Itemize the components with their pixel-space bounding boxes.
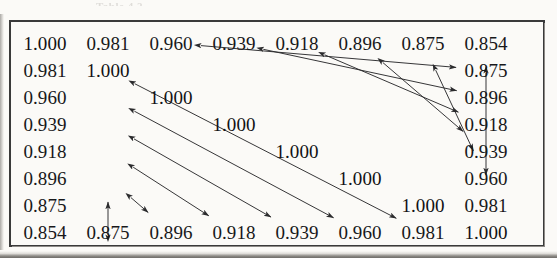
matrix-cell-r7-c7: 1.000 xyxy=(392,196,454,215)
matrix-cell-r2-c8: 0.875 xyxy=(455,61,517,80)
matrix-cell-r1-c1: 1.000 xyxy=(14,34,76,53)
caption-remnant-text: Table 4.2 xyxy=(96,1,200,6)
matrix-cell-r1-c7: 0.875 xyxy=(392,34,454,53)
matrix-cell-r7-c8: 0.981 xyxy=(455,196,517,215)
matrix-cell-r1-c4: 0.939 xyxy=(203,34,265,53)
matrix-cell-r8-c4: 0.918 xyxy=(203,223,265,242)
scan-edge-bottom xyxy=(0,251,557,258)
matrix-cell-r1-c5: 0.918 xyxy=(266,34,328,53)
matrix-cell-r8-c3: 0.896 xyxy=(140,223,202,242)
matrix-cell-r6-c1: 0.896 xyxy=(14,169,76,188)
matrix-cell-r4-c1: 0.939 xyxy=(14,115,76,134)
matrix-cell-r8-c8: 1.000 xyxy=(455,223,517,242)
matrix-cell-r3-c8: 0.896 xyxy=(455,88,517,107)
matrix-cell-r6-c8: 0.960 xyxy=(455,169,517,188)
figure-scan: Table 4.2 1.0000.9810.9600.9390.9180.896… xyxy=(0,0,557,258)
matrix-cell-r5-c8: 0.939 xyxy=(455,142,517,161)
matrix-cell-r6-c6: 1.000 xyxy=(329,169,391,188)
matrix-cell-r4-c4: 1.000 xyxy=(203,115,265,134)
matrix-cell-r1-c8: 0.854 xyxy=(455,34,517,53)
matrix-cell-r3-c3: 1.000 xyxy=(140,88,202,107)
matrix-cell-r2-c2: 1.000 xyxy=(77,61,139,80)
matrix-cell-r8-c1: 0.854 xyxy=(14,223,76,242)
matrix-cell-r8-c5: 0.939 xyxy=(266,223,328,242)
matrix-cell-r4-c8: 0.918 xyxy=(455,115,517,134)
matrix-cell-r8-c7: 0.981 xyxy=(392,223,454,242)
matrix-cell-r1-c3: 0.960 xyxy=(140,34,202,53)
matrix-cell-r2-c1: 0.981 xyxy=(14,61,76,80)
scan-edge-left xyxy=(0,14,4,250)
matrix-cell-r8-c6: 0.960 xyxy=(329,223,391,242)
matrix-cell-r8-c2: 0.875 xyxy=(77,223,139,242)
matrix-cell-r1-c6: 0.896 xyxy=(329,34,391,53)
matrix-cell-r5-c5: 1.000 xyxy=(266,142,328,161)
matrix-cell-r7-c1: 0.875 xyxy=(14,196,76,215)
matrix-cell-r1-c2: 0.981 xyxy=(77,34,139,53)
matrix-cell-r3-c1: 0.960 xyxy=(14,88,76,107)
matrix-cell-r5-c1: 0.918 xyxy=(14,142,76,161)
